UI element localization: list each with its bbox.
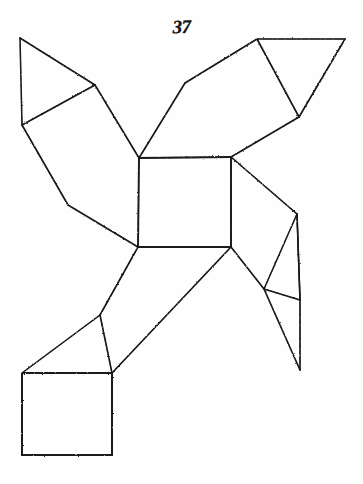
- figure-plate: 37: [0, 0, 363, 484]
- net-face-lower-left-square: [100, 247, 231, 373]
- net-face-central-square: [138, 157, 231, 247]
- polyhedron-net-drawing: [0, 0, 363, 484]
- net-face-bottom-square: [22, 373, 112, 455]
- net-face-lower-left-triangle: [22, 315, 112, 373]
- net-edge-central-sq-top: [139, 157, 231, 158]
